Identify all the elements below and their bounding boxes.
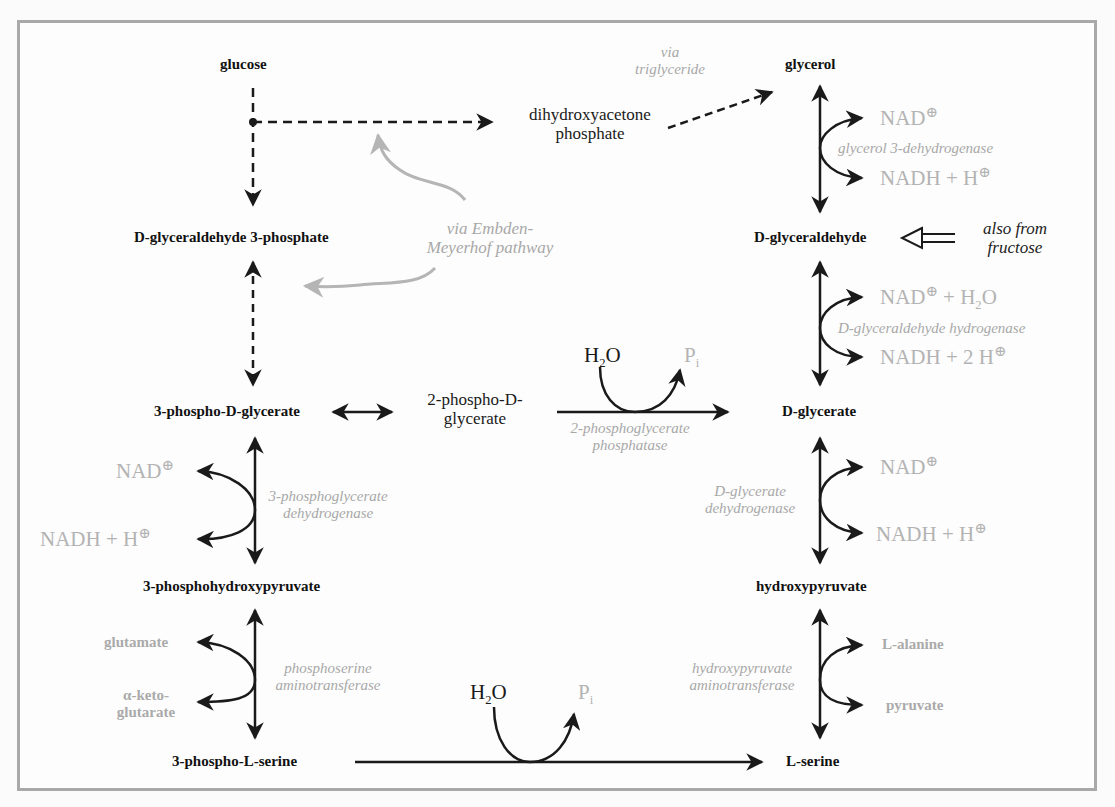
plus-icon: ⊕	[926, 104, 938, 120]
phosphatase-curve	[600, 367, 680, 412]
enzyme-hydroxypyruvate-aminotransferase: hydroxypyruvate aminotransferase	[672, 660, 812, 693]
serine-phosphatase-curve	[494, 707, 574, 762]
h-text: H	[470, 680, 485, 704]
embden-hint-arrow-up	[378, 135, 465, 200]
pgp-line1: 2-phosphoglycerate	[560, 420, 700, 437]
o-text: O	[982, 285, 997, 309]
hpat-line2: aminotransferase	[672, 677, 812, 694]
pg2-line2: glycerate	[400, 410, 550, 429]
serine-name: -serine	[796, 753, 839, 769]
aketo-line1: α-keto-	[108, 687, 184, 704]
cofactor-nadh-glycerate: NADH + H⊕	[876, 520, 986, 546]
pser-part-a: 3-phospho-	[172, 753, 244, 769]
gdh-line2: dehydrogenase	[690, 500, 810, 517]
fructose-input-arrow	[902, 228, 955, 248]
node-glyceraldehyde: D-glyceraldehyde	[754, 229, 867, 246]
cofactor-nad-h2o: NAD⊕ + H2O	[880, 283, 997, 313]
nad-text: NAD	[880, 106, 926, 130]
subscript-i: i	[696, 356, 700, 370]
o-text: O	[491, 680, 506, 704]
aketo-line2: glutarate	[108, 704, 184, 721]
cofactor-l-alanine: L-alanine	[882, 636, 944, 653]
psat-cofactor-curve	[198, 642, 255, 702]
node-glucose: glucose	[220, 56, 267, 73]
pgp-line2: phosphatase	[560, 437, 700, 454]
gdh-prefix: D	[714, 483, 725, 499]
cofactor-alpha-ketoglutarate: α-keto- glutarate	[108, 687, 184, 720]
phosphate-label-upper: Pi	[684, 344, 699, 371]
cofactor-nad-pgdh: NAD⊕	[116, 457, 174, 483]
also-from-fructose-label: also from fructose	[960, 220, 1070, 257]
g3p-prefix: D	[134, 229, 145, 245]
phosphate-label-lower: Pi	[578, 681, 593, 708]
pg3-part-a: 3-phospho-	[154, 403, 226, 419]
node-3-phosphohydroxypyruvate: 3-phosphohydroxypyruvate	[143, 578, 320, 595]
alanine-prefix: L	[882, 636, 892, 652]
node-2-phosphoglycerate: 2-phospho-D- glycerate	[400, 391, 550, 428]
pg2-prefix: D	[505, 390, 517, 409]
nadh-text: NADH + H	[880, 166, 978, 190]
node-hydroxypyruvate: hydroxypyruvate	[756, 578, 867, 595]
via-embden-meyerhof-label: via Embden- Meyerhof pathway	[390, 220, 590, 257]
enzyme-phosphoserine-aminotransferase: phosphoserine aminotransferase	[258, 660, 398, 693]
pg3-prefix: D	[226, 403, 237, 419]
nad-text: NAD	[116, 459, 162, 483]
glucose-to-g3p-arrow	[249, 88, 257, 205]
glyceraldehyde-prefix: D	[754, 229, 765, 245]
via-tg-line2: triglyceride	[620, 61, 720, 78]
pg2-part-a: 2-phospho-	[427, 390, 504, 409]
nad-text: NAD	[880, 285, 926, 309]
node-d-glycerate: D-glycerate	[782, 403, 856, 420]
cofactor-glutamate: glutamate	[104, 634, 168, 651]
gdh-line1: -glycerate	[725, 483, 786, 499]
pgdh-line1: 3-phosphoglycerate	[258, 488, 398, 505]
enzyme-2-phosphoglycerate-phosphatase: 2-phosphoglycerate phosphatase	[560, 420, 700, 453]
glycerate-prefix: D	[782, 403, 793, 419]
nad-text: NAD	[880, 455, 926, 479]
node-l-serine: L-serine	[786, 753, 839, 770]
pg3-part-b: -glycerate	[237, 403, 300, 419]
fructose-line2: fructose	[960, 239, 1070, 258]
psat-line1: phosphoserine	[258, 660, 398, 677]
via-triglyceride-label: via triglyceride	[620, 44, 720, 77]
cofactor-nadh-2h: NADH + 2 H⊕	[880, 343, 1006, 369]
via-tg-line1: via	[620, 44, 720, 61]
p-text: P	[578, 680, 590, 704]
serine-prefix: L	[786, 753, 796, 769]
via-em-line1: via Embden-	[390, 220, 590, 239]
node-glycerol: glycerol	[785, 56, 836, 73]
node-g3p: D-glyceraldehyde 3-phosphate	[134, 229, 329, 246]
cofactor-nadh-pgdh: NADH + H⊕	[40, 525, 150, 551]
alanine-name: -alanine	[892, 636, 944, 652]
p-text: P	[684, 343, 696, 367]
dhap-line1: dihydroxyacetone	[505, 106, 675, 125]
cofactor-nadh-glycerol: NADH + H⊕	[880, 164, 990, 190]
gdh-cofactor-curve	[820, 467, 862, 533]
glycerate-name: -glycerate	[793, 403, 856, 419]
pser-part-b: -serine	[254, 753, 297, 769]
nadh-2h-text: NADH + 2 H	[880, 345, 994, 369]
hpat-cofactor-curve	[820, 645, 862, 705]
node-dhap: dihydroxyacetone phosphate	[505, 106, 675, 143]
node-3-phosphoglycerate: 3-phospho-D-glycerate	[154, 403, 300, 420]
enzyme-glycerol-3-dehydrogenase: glycerol 3-dehydrogenase	[838, 140, 993, 157]
plus-icon: ⊕	[994, 343, 1006, 359]
h-text: H	[584, 343, 599, 367]
water-label-upper: H2O	[584, 344, 621, 371]
nadh-text: NADH + H	[40, 527, 138, 551]
enzyme-d-glyceraldehyde-hydrogenase: D-glyceraldehyde hydrogenase	[838, 320, 1025, 337]
psat-line2: aminotransferase	[258, 677, 398, 694]
plus-icon: ⊕	[974, 520, 986, 536]
pser-prefix: L	[244, 753, 254, 769]
plus-h-text: + H	[938, 285, 976, 309]
plus-icon: ⊕	[162, 457, 174, 473]
plus-icon: ⊕	[978, 164, 990, 180]
dhap-to-glycerol-arrow	[668, 92, 772, 128]
cofactor-pyruvate: pyruvate	[886, 697, 944, 714]
nadh-text: NADH + H	[876, 522, 974, 546]
dhap-line2: phosphate	[505, 125, 675, 144]
node-3-phosphoserine: 3-phospho-L-serine	[172, 753, 297, 770]
enzyme-d-glycerate-dehydrogenase: D-glycerate dehydrogenase	[690, 483, 810, 516]
pgdh-line2: dehydrogenase	[258, 505, 398, 522]
water-label-lower: H2O	[470, 681, 507, 708]
